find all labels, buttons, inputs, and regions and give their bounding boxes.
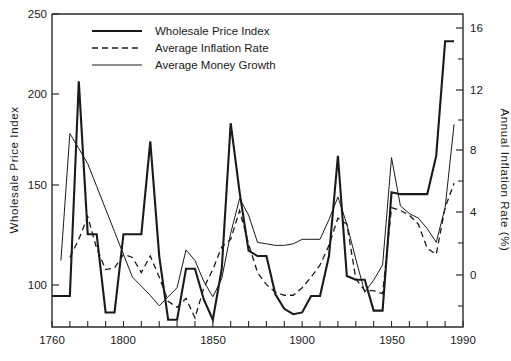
chart-figure: 250 200 150 100 Wholesale Price Index 16… bbox=[0, 0, 511, 361]
right-axis-ticklabels: 16 12 8 4 0 bbox=[470, 22, 483, 281]
x-tick-1900: 1900 bbox=[289, 334, 315, 346]
x-tick-1760: 1760 bbox=[39, 334, 65, 346]
legend-label-average-inflation-rate: Average Inflation Rate bbox=[155, 42, 269, 54]
bottom-axis-ticklabels: 1760 1800 1850 1900 1950 1990 bbox=[39, 334, 476, 346]
right-tick-16: 16 bbox=[470, 22, 483, 34]
legend-label-average-money-growth: Average Money Growth bbox=[155, 59, 276, 71]
x-tick-1990: 1990 bbox=[450, 334, 476, 346]
right-axis-ticks bbox=[456, 28, 463, 306]
right-tick-12: 12 bbox=[470, 84, 483, 96]
left-tick-200: 200 bbox=[28, 88, 47, 100]
left-axis-title: Wholesale Price Index bbox=[8, 106, 20, 233]
right-axis-title: Annual Inflation Rate (%) bbox=[499, 109, 511, 252]
left-tick-100: 100 bbox=[28, 279, 47, 291]
chart-svg: 250 200 150 100 Wholesale Price Index 16… bbox=[0, 0, 511, 361]
series-average-money-growth bbox=[61, 124, 454, 305]
left-axis-ticks bbox=[52, 14, 59, 285]
x-tick-1850: 1850 bbox=[200, 334, 226, 346]
series-wholesale-price-index bbox=[52, 41, 454, 319]
series-average-inflation-rate bbox=[70, 183, 454, 318]
x-tick-1800: 1800 bbox=[110, 334, 136, 346]
data-series-group bbox=[52, 41, 454, 319]
right-tick-4: 4 bbox=[470, 206, 477, 218]
right-tick-8: 8 bbox=[470, 144, 476, 156]
right-tick-0: 0 bbox=[470, 269, 476, 281]
left-tick-250: 250 bbox=[28, 8, 47, 20]
chart-legend: Wholesale Price Index Average Inflation … bbox=[92, 25, 276, 71]
bottom-axis-ticks bbox=[52, 321, 463, 327]
left-tick-150: 150 bbox=[28, 179, 47, 191]
legend-label-wholesale-price-index: Wholesale Price Index bbox=[155, 25, 270, 37]
left-axis-ticklabels: 250 200 150 100 bbox=[28, 8, 47, 291]
x-tick-1950: 1950 bbox=[379, 334, 405, 346]
